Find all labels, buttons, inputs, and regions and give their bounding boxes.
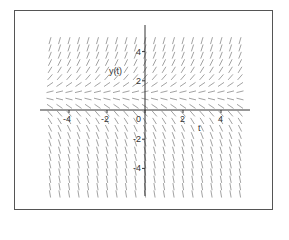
y-tick-label: -4 bbox=[133, 163, 141, 173]
slope-segment bbox=[182, 154, 184, 161]
slope-segment bbox=[58, 139, 60, 146]
slope-segment bbox=[210, 45, 212, 52]
slope-segment bbox=[95, 74, 100, 80]
slope-segment bbox=[228, 74, 233, 80]
slope-segment bbox=[162, 59, 165, 66]
slope-segment bbox=[135, 183, 136, 190]
slope-segment bbox=[68, 176, 69, 183]
slope-segment bbox=[68, 45, 70, 52]
slope-segment bbox=[125, 132, 128, 139]
slope-segment bbox=[230, 154, 232, 161]
slope-segment bbox=[49, 139, 51, 146]
slope-segment bbox=[153, 125, 156, 132]
slope-segment bbox=[192, 147, 194, 154]
x-tick-label: 2 bbox=[180, 114, 185, 124]
slope-segment bbox=[132, 91, 139, 93]
slope-segment bbox=[115, 45, 117, 52]
slope-segment bbox=[182, 169, 183, 176]
slope-segment bbox=[58, 45, 60, 52]
slope-segment bbox=[106, 190, 107, 197]
slope-segment bbox=[200, 118, 204, 124]
slope-segment bbox=[201, 147, 203, 154]
slope-segment bbox=[77, 67, 81, 73]
slope-segment bbox=[106, 52, 109, 59]
slope-segment bbox=[163, 132, 166, 139]
slope-segment bbox=[114, 82, 120, 86]
slope-segment bbox=[76, 104, 82, 108]
slope-segment bbox=[220, 169, 221, 176]
slope-segment bbox=[151, 91, 158, 93]
slope-segment bbox=[66, 82, 72, 86]
slope-segment bbox=[104, 98, 111, 100]
slope-segment bbox=[105, 59, 108, 66]
slope-segment bbox=[154, 147, 156, 154]
slope-segment bbox=[239, 139, 241, 146]
slope-segment bbox=[227, 98, 234, 100]
slope-segment bbox=[115, 118, 119, 124]
slope-segment bbox=[173, 37, 175, 44]
slope-segment bbox=[58, 52, 61, 59]
slope-segment bbox=[94, 98, 101, 100]
slope-segment bbox=[66, 91, 73, 93]
slope-segment bbox=[48, 111, 53, 117]
slope-segment bbox=[208, 91, 215, 93]
slope-segment bbox=[220, 154, 222, 161]
slope-segment bbox=[238, 125, 241, 132]
slope-segment bbox=[77, 139, 79, 146]
slope-segment bbox=[228, 104, 234, 108]
slope-segment bbox=[77, 45, 79, 52]
slope-segment bbox=[210, 59, 213, 66]
slope-segment bbox=[132, 98, 139, 100]
slope-segment bbox=[182, 45, 184, 52]
slope-segment bbox=[49, 176, 50, 183]
slope-segment bbox=[68, 161, 70, 168]
slope-segment bbox=[219, 59, 222, 66]
slope-segment bbox=[97, 169, 98, 176]
slope-segment bbox=[182, 139, 184, 146]
slope-segment bbox=[87, 169, 88, 176]
slope-segment bbox=[48, 118, 52, 124]
slope-segment bbox=[199, 98, 206, 100]
slope-segment bbox=[239, 154, 241, 161]
slope-segment bbox=[201, 183, 202, 190]
slope-segment bbox=[59, 161, 61, 168]
x-tick-label: 4 bbox=[218, 114, 223, 124]
slope-segment bbox=[192, 169, 193, 176]
slope-segment bbox=[87, 176, 88, 183]
slope-segment bbox=[87, 37, 89, 44]
slope-segment bbox=[220, 45, 222, 52]
slope-segment bbox=[124, 111, 129, 117]
slope-segment bbox=[239, 52, 242, 59]
slope-segment bbox=[86, 67, 90, 73]
slope-segment bbox=[78, 176, 79, 183]
slope-segment bbox=[191, 118, 195, 124]
slope-segment bbox=[189, 98, 196, 100]
slope-segment bbox=[210, 132, 213, 139]
slope-segment bbox=[47, 98, 54, 100]
slope-segment bbox=[153, 132, 156, 139]
slope-segment bbox=[97, 154, 99, 161]
slope-segment bbox=[153, 59, 156, 66]
slope-segment bbox=[218, 82, 224, 86]
slope-segment bbox=[68, 190, 69, 197]
slope-segment bbox=[237, 104, 243, 108]
slope-segment bbox=[48, 74, 53, 80]
slope-segment bbox=[182, 183, 183, 190]
slope-segment bbox=[182, 132, 185, 139]
slope-segment bbox=[56, 98, 63, 100]
slope-segment bbox=[229, 125, 232, 132]
slope-segment bbox=[96, 125, 99, 132]
slope-segment bbox=[114, 104, 120, 108]
slope-segment bbox=[76, 111, 81, 117]
slope-segment bbox=[171, 104, 177, 108]
slope-segment bbox=[211, 169, 212, 176]
slope-segment bbox=[189, 91, 196, 93]
slope-segment bbox=[85, 82, 91, 86]
slope-segment bbox=[199, 104, 205, 108]
slope-segment bbox=[75, 98, 82, 100]
slope-segment bbox=[192, 190, 193, 197]
slope-segment bbox=[49, 37, 51, 44]
slope-segment bbox=[97, 176, 98, 183]
slope-segment bbox=[201, 176, 202, 183]
slope-segment bbox=[239, 183, 240, 190]
